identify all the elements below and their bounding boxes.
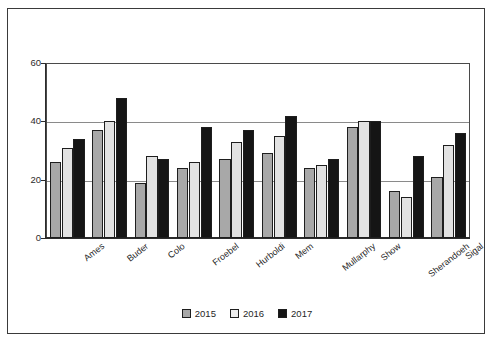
bar-ames-2015[interactable] <box>50 162 61 238</box>
bar-colo-2015[interactable] <box>135 183 146 238</box>
y-axis: 0204060 <box>8 9 41 335</box>
x-tick-label-ames: Ames <box>82 241 106 263</box>
bar-mullarphy-2016[interactable] <box>316 165 327 238</box>
bar-sigal-2016[interactable] <box>443 145 454 238</box>
legend-label: 2017 <box>291 309 312 319</box>
y-tick-mark <box>41 238 46 239</box>
x-tick-label-mullarphy: Mullarphy <box>340 241 377 273</box>
bar-hurboldi-2015[interactable] <box>219 159 230 238</box>
bar-ames-2016[interactable] <box>62 148 73 238</box>
chart-legend: 201520162017 <box>8 309 486 319</box>
bar-show-2015[interactable] <box>347 127 358 238</box>
x-tick-label-show: Show <box>379 241 403 263</box>
x-tick-label-sherandoeh: Sherandoeh <box>427 241 472 279</box>
series-2016-swatch <box>230 309 239 318</box>
bar-sherandoeh-2015[interactable] <box>389 191 400 238</box>
bar-buder-2017[interactable] <box>116 98 127 238</box>
y-tick-label: 60 <box>15 58 41 68</box>
x-tick-label-buder: Buder <box>125 241 150 264</box>
bar-group <box>92 63 127 238</box>
bar-colo-2017[interactable] <box>158 159 169 238</box>
y-tick-mark <box>41 180 46 181</box>
x-tick-label-colo: Colo <box>166 241 187 260</box>
bar-colo-2016[interactable] <box>146 156 157 238</box>
legend-item-2015[interactable]: 2015 <box>182 309 216 319</box>
bar-sherandoeh-2017[interactable] <box>413 156 424 238</box>
bar-group <box>304 63 339 238</box>
bar-froebel-2017[interactable] <box>201 127 212 238</box>
bar-sherandoeh-2016[interactable] <box>401 197 412 238</box>
bar-group <box>347 63 382 238</box>
y-tick-label: 0 <box>15 233 41 243</box>
bar-buder-2016[interactable] <box>104 121 115 238</box>
chart-frame: 0204060 AmesBuderColoFroebelHurboldiMemM… <box>7 8 485 334</box>
y-tick-label: 20 <box>15 175 41 185</box>
bar-buder-2015[interactable] <box>92 130 103 238</box>
bar-hurboldi-2016[interactable] <box>231 142 242 238</box>
x-tick-label-mem: Mem <box>293 241 315 261</box>
bars-layer <box>46 63 470 238</box>
bar-hurboldi-2017[interactable] <box>243 130 254 238</box>
bar-group <box>389 63 424 238</box>
legend-item-2016[interactable]: 2016 <box>230 309 264 319</box>
y-tick-mark <box>41 63 46 64</box>
bar-froebel-2016[interactable] <box>189 162 200 238</box>
bar-group <box>177 63 212 238</box>
bar-mullarphy-2015[interactable] <box>304 168 315 238</box>
bar-froebel-2015[interactable] <box>177 168 188 238</box>
bar-mem-2015[interactable] <box>262 153 273 238</box>
y-tick-label: 40 <box>15 116 41 126</box>
y-tick-mark <box>41 121 46 122</box>
legend-item-2017[interactable]: 2017 <box>278 309 312 319</box>
bar-sigal-2015[interactable] <box>431 177 442 238</box>
bar-group <box>431 63 466 238</box>
series-2017-swatch <box>278 309 287 318</box>
bar-group <box>262 63 297 238</box>
series-2015-swatch <box>182 309 191 318</box>
bar-mullarphy-2017[interactable] <box>328 159 339 238</box>
bar-sigal-2017[interactable] <box>455 133 466 238</box>
bar-mem-2016[interactable] <box>274 136 285 238</box>
legend-label: 2015 <box>195 309 216 319</box>
bar-group <box>50 63 85 238</box>
x-tick-label-hurboldi: Hurboldi <box>254 241 287 270</box>
x-tick-label-froebel: Froebel <box>211 241 241 268</box>
bar-ames-2017[interactable] <box>73 139 84 238</box>
x-axis-labels: AmesBuderColoFroebelHurboldiMemMullarphy… <box>46 241 470 303</box>
bar-group <box>219 63 254 238</box>
legend-label: 2016 <box>243 309 264 319</box>
bar-group <box>135 63 170 238</box>
bar-show-2017[interactable] <box>370 121 381 238</box>
bar-mem-2017[interactable] <box>285 116 296 239</box>
bar-show-2016[interactable] <box>358 121 369 238</box>
